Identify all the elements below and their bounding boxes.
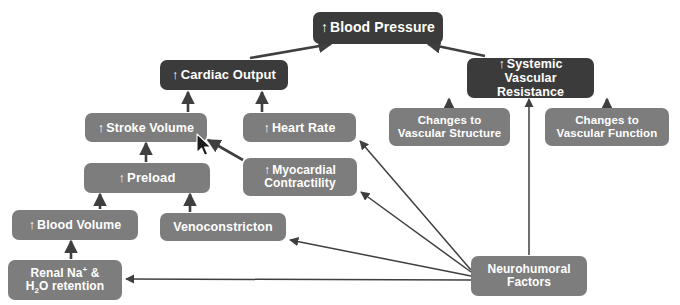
increase-arrow-icon: ↑ bbox=[264, 121, 270, 135]
node-stroke-volume[interactable]: ↑Stroke Volume bbox=[85, 113, 207, 142]
blood-pressure-flowchart: ↑Blood Pressure↑Cardiac Output↑Systemic … bbox=[0, 0, 680, 305]
node-label-systemic-vascular-resistance: ↑Systemic Vascular Resistance bbox=[474, 57, 587, 99]
edge-neurohumoral-to-venoconstricton bbox=[290, 240, 471, 276]
node-venoconstricton[interactable]: Venoconstricton bbox=[160, 213, 286, 241]
edge-svr-to-blood-pressure bbox=[428, 44, 485, 56]
node-label-renal-na-h2o-retention: Renal Na+ &H2O retention bbox=[26, 267, 104, 294]
node-label-blood-pressure: ↑Blood Pressure bbox=[321, 20, 435, 36]
node-preload[interactable]: ↑Preload bbox=[84, 163, 210, 193]
node-changes-to-vascular-function[interactable]: Changes to Vascular Function bbox=[545, 108, 669, 146]
edge-myocardial-to-stroke-volume bbox=[208, 140, 243, 160]
edge-cardiac-output-to-blood-pressure bbox=[250, 44, 331, 58]
edge-neurohumoral-to-myocardial bbox=[361, 192, 471, 272]
node-label-stroke-volume: ↑Stroke Volume bbox=[98, 121, 194, 135]
node-label-cardiac-output: ↑Cardiac Output bbox=[172, 68, 276, 83]
node-systemic-vascular-resistance[interactable]: ↑Systemic Vascular Resistance bbox=[467, 58, 594, 98]
node-label-myocardial-contractility: ↑Myocardial Contractility bbox=[250, 164, 350, 191]
increase-arrow-icon: ↑ bbox=[321, 20, 328, 36]
increase-arrow-icon: ↑ bbox=[498, 57, 504, 71]
node-label-changes-to-vascular-function: Changes to Vascular Function bbox=[552, 114, 662, 140]
node-changes-to-vascular-structure[interactable]: Changes to Vascular Structure bbox=[389, 108, 510, 146]
node-blood-volume[interactable]: ↑Blood Volume bbox=[12, 210, 138, 240]
node-label-preload: ↑Preload bbox=[119, 171, 176, 186]
node-blood-pressure[interactable]: ↑Blood Pressure bbox=[313, 12, 443, 44]
edge-neurohumoral-to-heart-rate bbox=[360, 141, 471, 270]
increase-arrow-icon: ↑ bbox=[98, 121, 104, 135]
node-label-blood-volume: ↑Blood Volume bbox=[29, 218, 122, 232]
node-label-changes-to-vascular-structure: Changes to Vascular Structure bbox=[396, 114, 503, 140]
node-cardiac-output[interactable]: ↑Cardiac Output bbox=[160, 60, 288, 90]
increase-arrow-icon: ↑ bbox=[172, 68, 179, 83]
node-myocardial-contractility[interactable]: ↑Myocardial Contractility bbox=[243, 158, 357, 196]
node-label-neurohumoral-factors: Neurohumoral Factors bbox=[478, 263, 580, 290]
node-label-heart-rate: ↑Heart Rate bbox=[264, 121, 336, 135]
node-neurohumoral-factors[interactable]: Neurohumoral Factors bbox=[471, 256, 587, 296]
node-label-venoconstricton: Venoconstricton bbox=[173, 220, 272, 234]
edge-neurohumoral-to-renal bbox=[126, 279, 471, 280]
increase-arrow-icon: ↑ bbox=[119, 171, 126, 186]
increase-arrow-icon: ↑ bbox=[29, 218, 35, 232]
node-renal-na-h2o-retention[interactable]: Renal Na+ &H2O retention bbox=[8, 260, 122, 300]
increase-arrow-icon: ↑ bbox=[264, 164, 270, 177]
node-heart-rate[interactable]: ↑Heart Rate bbox=[243, 113, 356, 142]
